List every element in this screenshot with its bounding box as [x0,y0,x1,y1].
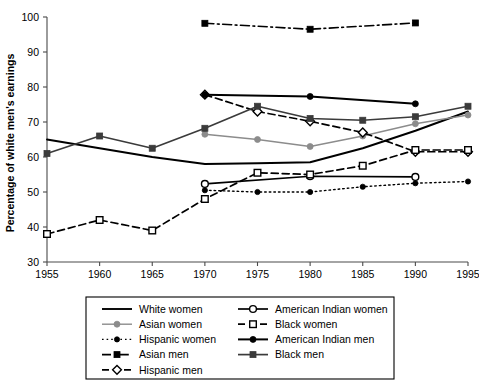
legend-label-hispanic_women: Hispanic women [139,333,216,345]
data-point-marker [250,336,256,342]
y-tick-label: 60 [27,151,39,163]
y-tick-label: 90 [27,46,39,58]
data-point-marker [307,26,313,32]
data-point-marker [114,352,120,358]
data-point-marker [255,103,261,109]
data-point-marker [202,125,208,131]
data-point-marker [412,174,419,181]
legend-item-hispanic_men[interactable]: Hispanic men [102,364,203,376]
data-point-marker [307,171,314,178]
legend-label-black_women: Black women [275,318,338,330]
data-point-marker [307,144,313,150]
data-point-marker [254,169,261,176]
data-point-marker [44,151,50,157]
x-tick-label: 1955 [35,268,59,280]
data-point-marker [360,184,365,189]
data-point-marker [44,231,51,238]
x-tick-label: 1975 [246,268,270,280]
y-tick-label: 80 [27,81,39,93]
y-tick-label: 30 [27,256,39,268]
chart-container: Percentage of white men's earnings 30405… [0,0,479,386]
data-point-marker [412,114,418,120]
y-axis-title-text: Percentage of white men's earnings [4,53,16,232]
data-point-marker [202,92,208,98]
data-point-marker [465,147,472,154]
data-point-marker [96,217,103,224]
legend-label-asian_men: Asian men [139,348,189,360]
legend-label-american_indian_men: American Indian men [275,333,374,345]
earnings-line-chart: Percentage of white men's earnings 30405… [0,0,479,386]
data-point-marker [465,179,470,184]
data-point-marker [359,162,366,169]
legend-label-asian_women: Asian women [139,318,202,330]
data-point-marker [114,337,119,342]
legend-label-black_men: Black men [275,348,324,360]
data-point-marker [307,93,313,99]
data-point-marker [412,147,419,154]
y-tick-label: 40 [27,221,39,233]
data-point-marker [149,145,155,151]
x-tick-label: 1980 [298,268,322,280]
data-point-marker [114,321,120,327]
data-point-marker [149,227,156,234]
data-point-marker [412,121,418,127]
data-point-marker [307,116,313,122]
data-point-marker [412,20,418,26]
legend-label-white_women: White women [139,303,203,315]
data-point-marker [255,189,260,194]
y-axis-title: Percentage of white men's earnings [4,53,16,232]
x-tick-label: 1995 [456,268,479,280]
data-point-marker [97,133,103,139]
data-point-marker [202,20,208,26]
legend-label-hispanic_men: Hispanic men [139,364,203,376]
data-point-marker [308,189,313,194]
legend-label-american_indian_women: American Indian women [275,303,388,315]
data-point-marker [201,181,208,188]
x-tick-label: 1985 [351,268,375,280]
data-point-marker [465,103,471,109]
y-tick-label: 70 [27,116,39,128]
data-point-marker [202,131,208,137]
data-point-marker [250,306,257,313]
y-tick-label: 50 [27,186,39,198]
y-tick-label: 100 [21,11,39,23]
x-tick-label: 1970 [193,268,217,280]
x-tick-label: 1990 [404,268,428,280]
data-point-marker [360,117,366,123]
data-point-marker [202,188,207,193]
legend: White womenAsian womenHispanic womenAsia… [86,297,394,379]
x-tick-label: 1960 [88,268,112,280]
x-tick-label: 1965 [141,268,165,280]
data-point-marker [413,181,418,186]
data-point-marker [202,196,209,203]
data-point-marker [412,101,418,107]
data-point-marker [255,137,261,143]
data-point-marker [250,352,256,358]
data-point-marker [250,321,257,328]
data-point-marker [465,112,471,118]
